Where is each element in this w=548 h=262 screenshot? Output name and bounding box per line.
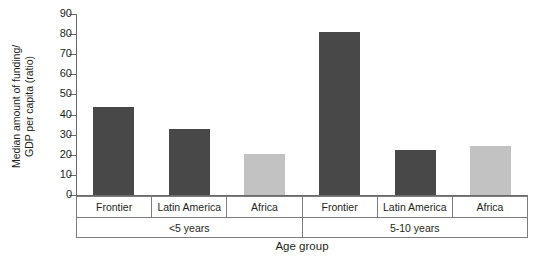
bar [470, 146, 511, 195]
category-label: Frontier [302, 196, 377, 218]
y-tick-label: 50 [60, 87, 72, 100]
bar [395, 150, 436, 195]
y-axis-line [76, 14, 77, 196]
y-tick-label: 10 [60, 168, 72, 181]
group-label-row: <5 years5-10 years [76, 218, 528, 238]
bar [244, 154, 285, 195]
y-tick-label: 20 [60, 148, 72, 161]
x-axis-title: Age group [76, 240, 528, 252]
bar-chart-figure: Median amount of funding/ GDP per capita… [0, 0, 548, 262]
group-label: <5 years [76, 218, 303, 238]
y-tick-label: 80 [60, 27, 72, 40]
y-tick-label: 0 [66, 188, 72, 201]
category-label: Latin America [377, 196, 452, 218]
bar [169, 129, 210, 195]
bar [319, 32, 360, 195]
y-tick-label: 70 [60, 47, 72, 60]
group-label: 5-10 years [302, 218, 529, 238]
y-tick-label: 40 [60, 108, 72, 121]
category-label: Africa [452, 196, 528, 218]
category-label-row: FrontierLatin AmericaAfricaFrontierLatin… [76, 196, 528, 218]
y-tick-label: 60 [60, 67, 72, 80]
y-tick-label: 30 [60, 128, 72, 141]
y-axis-title: Median amount of funding/ GDP per capita… [10, 7, 35, 207]
bar [93, 107, 134, 195]
y-tick-label: 90 [60, 7, 72, 20]
category-label: Latin America [151, 196, 226, 218]
category-label: Frontier [76, 196, 151, 218]
category-label: Africa [226, 196, 301, 218]
plot-area: 0102030405060708090 [76, 14, 528, 196]
